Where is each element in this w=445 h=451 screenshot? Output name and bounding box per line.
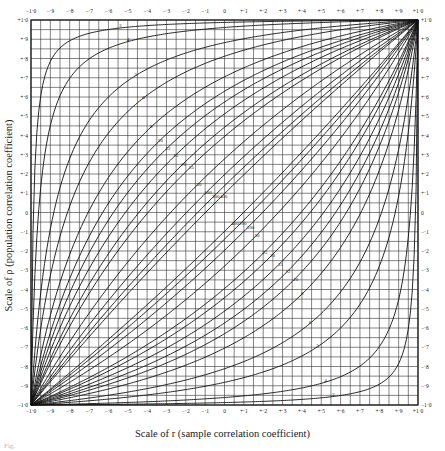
curve-label: 25	[262, 250, 268, 255]
y-tick-label: +·3	[20, 152, 28, 158]
curve-label: 10	[293, 277, 299, 282]
x-tick-label: −·5	[124, 8, 132, 14]
figure-caption: Fig.	[4, 442, 15, 450]
curve-label: 12	[166, 146, 172, 151]
y-tick-label: +1·0	[421, 17, 432, 23]
y-tick-label: −·5	[20, 306, 28, 312]
x-tick-label: −·2	[182, 8, 190, 14]
y-tick-label: +·3	[421, 152, 429, 158]
y-tick-label: −·4	[421, 287, 429, 293]
y-tick-label: +·4	[421, 133, 429, 139]
confidence-belt-chart: 3344556688101012121515202025255050100100…	[0, 0, 445, 451]
y-tick-label: +·4	[20, 133, 28, 139]
curve-label: 20	[181, 162, 187, 167]
y-tick-label: +·9	[421, 36, 429, 42]
y-tick-label: −·5	[421, 306, 429, 312]
curve-label: 15	[173, 153, 179, 158]
curve-label: 8	[301, 291, 304, 296]
x-tick-label: +·1	[240, 8, 248, 14]
y-tick-label: −·1	[20, 229, 28, 235]
x-tick-label: +·8	[375, 408, 383, 414]
x-tick-label: +·8	[375, 8, 383, 14]
curve-label: 400	[231, 221, 239, 226]
y-tick-label: −·6	[20, 325, 28, 331]
curve-label: 20	[270, 253, 276, 258]
y-tick-label: +·5	[20, 113, 28, 119]
x-tick-label: +·1	[240, 408, 248, 414]
x-tick-label: +·4	[298, 408, 306, 414]
y-axis-ticks-left: +1·0+·9+·8+·7+·6+·5+·4+·3+·2+·10−·1−·2−·…	[18, 17, 29, 408]
y-tick-label: +·8	[20, 56, 28, 62]
y-tick-label: +·7	[20, 75, 28, 81]
x-tick-label: −·5	[124, 408, 132, 414]
curve-label: 50	[255, 233, 261, 238]
x-tick-label: +·3	[279, 408, 287, 414]
y-tick-label: +1·0	[18, 17, 29, 23]
x-tick-label: −·3	[163, 408, 171, 414]
y-tick-label: +·9	[20, 36, 28, 42]
x-tick-label: −1·0	[26, 8, 37, 14]
curve-label: 15	[278, 262, 284, 267]
y-tick-label: −·3	[20, 267, 28, 273]
x-tick-label: +1·0	[413, 8, 424, 14]
x-tick-label: −·6	[105, 408, 113, 414]
y-tick-label: −1·0	[421, 402, 432, 408]
y-tick-label: +·5	[421, 113, 429, 119]
x-tick-label: +·2	[259, 8, 267, 14]
y-tick-label: −·1	[421, 229, 429, 235]
x-tick-label: −·4	[143, 408, 151, 414]
x-tick-label: −·2	[182, 408, 190, 414]
x-tick-label: +·2	[259, 408, 267, 414]
x-axis-label: Scale of r (sample correlation coefficie…	[0, 428, 445, 439]
y-tick-label: −·3	[421, 267, 429, 273]
x-tick-label: −·9	[47, 408, 55, 414]
y-tick-label: +·2	[421, 171, 429, 177]
x-tick-label: −·1	[201, 8, 209, 14]
y-tick-label: −·8	[20, 364, 28, 370]
x-tick-label: +·9	[395, 408, 403, 414]
x-tick-label: −·8	[66, 408, 74, 414]
x-tick-label: −·7	[85, 408, 93, 414]
grid-lines	[31, 20, 418, 405]
x-tick-label: +·6	[337, 408, 345, 414]
y-axis-label: Scale of ρ (population correlation coeff…	[3, 101, 14, 331]
curve-label: 50	[196, 182, 202, 187]
x-tick-label: +·7	[356, 8, 364, 14]
x-tick-label: −1·0	[26, 408, 37, 414]
y-tick-label: −·7	[20, 344, 28, 350]
y-tick-label: +·1	[421, 190, 429, 196]
x-tick-label: +·5	[317, 408, 325, 414]
y-tick-label: +·6	[421, 94, 429, 100]
y-tick-label: +·8	[421, 56, 429, 62]
x-axis-ticks-top: −1·0−·9−·8−·7−·6−·5−·4−·3−·2−·10+·1+·2+·…	[26, 8, 424, 14]
y-tick-label: +·7	[421, 75, 429, 81]
y-tick-label: +·6	[20, 94, 28, 100]
curve-label: 10	[158, 138, 164, 143]
y-tick-label: +·1	[20, 190, 28, 196]
x-tick-label: +·9	[395, 8, 403, 14]
x-tick-label: +·7	[356, 408, 364, 414]
y-tick-label: −·7	[421, 344, 429, 350]
y-tick-label: −·8	[421, 364, 429, 370]
x-tick-label: +·5	[317, 8, 325, 14]
x-tick-label: +1·0	[413, 408, 424, 414]
x-tick-label: 0	[223, 408, 226, 414]
curve-label: 400	[220, 194, 228, 199]
x-tick-label: −·6	[105, 8, 113, 14]
x-tick-label: +·4	[298, 8, 306, 14]
curve-label: 200	[239, 221, 247, 226]
x-tick-label: +·6	[337, 8, 345, 14]
x-tick-label: +·3	[279, 8, 287, 14]
x-tick-label: −·3	[163, 8, 171, 14]
y-tick-label: −·6	[421, 325, 429, 331]
y-tick-label: −·9	[421, 383, 429, 389]
curve-label: 12	[285, 269, 291, 274]
curve-label: 8	[150, 124, 153, 129]
curve-label: 25	[189, 165, 195, 170]
x-tick-label: 0	[223, 8, 226, 14]
x-tick-label: −·7	[85, 8, 93, 14]
y-tick-label: −·2	[421, 248, 429, 254]
y-axis-ticks-right: +1·0+·9+·8+·7+·6+·5+·4+·3+·2+·10−·1−·2−·…	[421, 17, 432, 408]
y-tick-label: −·9	[20, 383, 28, 389]
x-axis-ticks-bottom: −1·0−·9−·8−·7−·6−·5−·4−·3−·2−·10+·1+·2+·…	[26, 408, 424, 414]
